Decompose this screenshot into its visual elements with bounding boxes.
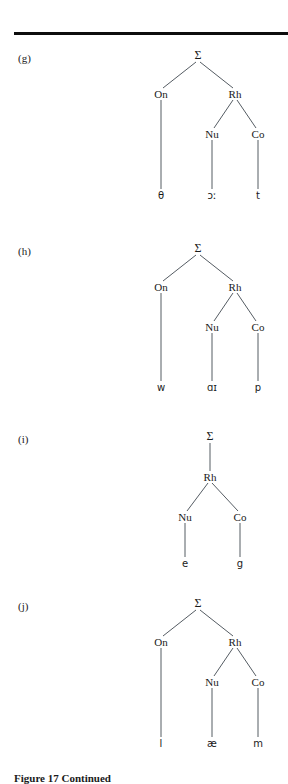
node-rhyme-g: Rh — [229, 89, 242, 100]
terminal-onset-g: θ — [158, 191, 164, 201]
tree-label-j: (j) — [18, 600, 28, 612]
node-nucleus-h: Nu — [205, 322, 218, 333]
node-sigma-h: Σ — [195, 243, 202, 254]
node-coda-i: Co — [234, 512, 247, 523]
node-rhyme-j: Rh — [229, 637, 242, 648]
terminal-coda-h: p — [255, 383, 261, 393]
tree-label-g: (g) — [18, 52, 31, 64]
node-rhyme-h: Rh — [229, 282, 242, 293]
node-coda-g: Co — [252, 129, 265, 140]
terminal-nucleus-g: ɔː — [208, 191, 217, 201]
node-nucleus-i: Nu — [178, 512, 191, 523]
terminal-nucleus-h: ɑɪ — [207, 383, 217, 393]
tree-label-i: (i) — [18, 433, 28, 445]
node-onset-j: On — [154, 637, 167, 648]
node-sigma-i: Σ — [207, 431, 214, 442]
figure-caption: Figure 17 Continued — [14, 772, 111, 784]
node-coda-j: Co — [252, 677, 265, 688]
node-nucleus-j: Nu — [205, 677, 218, 688]
node-nucleus-g: Nu — [205, 129, 218, 140]
terminal-onset-h: w — [157, 383, 165, 393]
tree-label-h: (h) — [18, 245, 31, 257]
node-onset-h: On — [154, 282, 167, 293]
terminal-coda-i: g — [237, 559, 243, 569]
terminal-coda-g: t — [256, 191, 260, 201]
terminal-onset-j: l — [160, 739, 163, 749]
figure-top-rule — [14, 32, 288, 35]
node-sigma-g: Σ — [195, 50, 202, 61]
node-coda-h: Co — [252, 322, 265, 333]
terminal-nucleus-i: e — [182, 559, 188, 569]
node-rhyme-i: Rh — [204, 472, 217, 483]
terminal-coda-j: m — [253, 739, 263, 749]
terminal-nucleus-j: æ — [207, 739, 217, 749]
node-onset-g: On — [154, 89, 167, 100]
node-sigma-j: Σ — [195, 598, 202, 609]
